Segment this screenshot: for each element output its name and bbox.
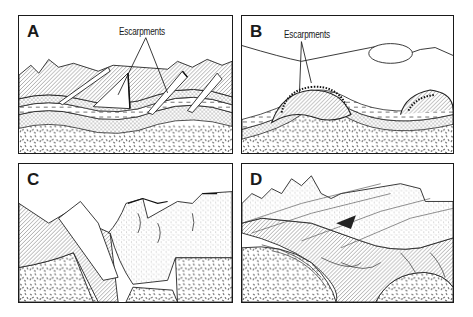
breached-dome-illustration (242, 16, 453, 153)
escarpments-callout-a: Escarpments (119, 26, 165, 37)
panel-letter-a: A (27, 22, 39, 42)
panel-c: C (18, 163, 233, 303)
panel-a: A Escarpments (18, 15, 233, 154)
folded-thrust-belt-illustration (242, 164, 453, 302)
faulted-plateau-illustration (19, 164, 232, 302)
panel-b: B Escarpments (241, 15, 454, 154)
panel-letter-b: B (250, 22, 262, 42)
panel-letter-c: C (27, 170, 39, 190)
escarpments-callout-b: Escarpments (284, 29, 330, 40)
panel-letter-d: D (250, 170, 262, 190)
panel-d: D (241, 163, 454, 303)
